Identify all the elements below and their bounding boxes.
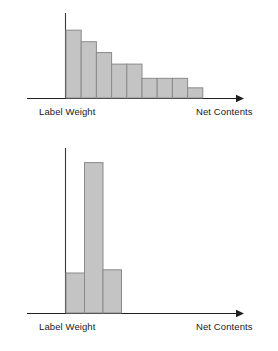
histogram-bar [188, 88, 203, 98]
bar-group-top [66, 30, 203, 98]
histogram-bar [66, 30, 81, 98]
histogram-bar [172, 78, 187, 98]
chart-bottom: Label Weight Net Contents [0, 140, 278, 351]
x-axis-label-left-top: Label Weight [39, 106, 96, 117]
histogram-bar [81, 42, 96, 98]
histogram-bar [103, 270, 122, 313]
histogram-bar [85, 163, 104, 313]
histogram-bar [127, 64, 142, 98]
chart-top-plot: Label Weight Net Contents [0, 0, 278, 130]
x-axis-label-left-bottom: Label Weight [39, 321, 96, 332]
chart-top: Label Weight Net Contents [0, 0, 278, 130]
chart-bottom-plot: Label Weight Net Contents [0, 140, 278, 351]
histogram-bar [96, 53, 111, 98]
x-axis-arrow-top [236, 95, 244, 102]
histogram-bar [112, 64, 127, 98]
bar-group-bottom [66, 163, 122, 313]
x-axis-arrow-bottom [236, 310, 244, 317]
histogram-bar [157, 78, 172, 98]
histogram-bar [66, 273, 85, 313]
x-axis-label-right-top: Net Contents [196, 106, 253, 117]
x-axis-label-right-bottom: Net Contents [196, 321, 253, 332]
histogram-bar [142, 78, 157, 98]
figure-container: Label Weight Net Contents Label Weight N… [0, 0, 278, 351]
